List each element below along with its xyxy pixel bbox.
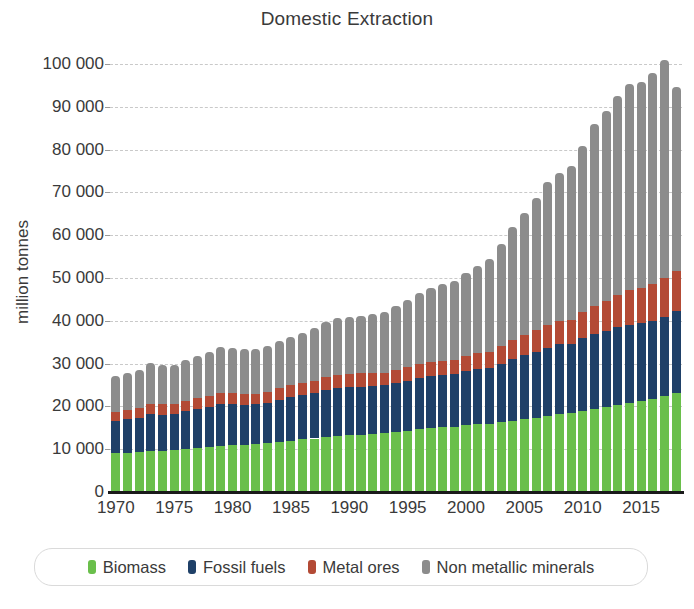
bar-1996[interactable] [415, 64, 424, 492]
bar-1999[interactable] [450, 64, 459, 492]
bar-1979[interactable] [216, 64, 225, 492]
bar-2003[interactable] [497, 64, 506, 492]
bar-1990[interactable] [345, 64, 354, 492]
bar-segment-fossil-fuels [508, 359, 517, 420]
bar-segment-fossil-fuels [135, 418, 144, 453]
bar-segment-non-metallic-minerals [485, 259, 494, 351]
legend-item-biomass[interactable]: Biomass [88, 558, 166, 577]
bar-2006[interactable] [532, 64, 541, 492]
bar-1978[interactable] [205, 64, 214, 492]
bar-segment-non-metallic-minerals [123, 373, 132, 410]
bar-segment-non-metallic-minerals [461, 273, 470, 356]
bar-2017[interactable] [660, 64, 669, 492]
bar-1984[interactable] [275, 64, 284, 492]
legend-swatch-icon [308, 560, 316, 574]
bar-1988[interactable] [321, 64, 330, 492]
bar-segment-fossil-fuels [648, 321, 657, 399]
bar-1972[interactable] [135, 64, 144, 492]
bar-2001[interactable] [473, 64, 482, 492]
bar-segment-fossil-fuels [286, 397, 295, 440]
bar-2014[interactable] [625, 64, 634, 492]
bar-1975[interactable] [170, 64, 179, 492]
bar-segment-non-metallic-minerals [508, 227, 517, 340]
bar-2002[interactable] [485, 64, 494, 492]
bar-segment-fossil-fuels [158, 415, 167, 451]
bar-1995[interactable] [403, 64, 412, 492]
bar-1994[interactable] [391, 64, 400, 492]
bar-1981[interactable] [240, 64, 249, 492]
bar-segment-biomass [532, 418, 541, 492]
bar-segment-biomass [158, 451, 167, 492]
bar-2000[interactable] [461, 64, 470, 492]
bar-1992[interactable] [368, 64, 377, 492]
bar-segment-metal-ores [520, 335, 529, 355]
y-axis-tick-label: 10 000 [4, 439, 104, 459]
y-axis-tick-label: 30 000 [4, 354, 104, 374]
bar-segment-metal-ores [648, 284, 657, 320]
bar-1970[interactable] [111, 64, 120, 492]
bar-segment-metal-ores [415, 364, 424, 378]
bar-2015[interactable] [637, 64, 646, 492]
bar-segment-biomass [403, 431, 412, 492]
bar-1976[interactable] [181, 64, 190, 492]
bar-segment-metal-ores [170, 404, 179, 414]
bar-1985[interactable] [286, 64, 295, 492]
bar-1989[interactable] [333, 64, 342, 492]
bar-2012[interactable] [602, 64, 611, 492]
bar-segment-non-metallic-minerals [403, 300, 412, 367]
bar-1982[interactable] [251, 64, 260, 492]
bar-segment-fossil-fuels [391, 383, 400, 432]
bar-segment-non-metallic-minerals [263, 346, 272, 392]
legend-swatch-icon [422, 560, 430, 574]
bar-2004[interactable] [508, 64, 517, 492]
bar-1997[interactable] [426, 64, 435, 492]
bar-1986[interactable] [298, 64, 307, 492]
bar-segment-fossil-fuels [123, 419, 132, 452]
bar-2011[interactable] [590, 64, 599, 492]
bar-1971[interactable] [123, 64, 132, 492]
bar-segment-metal-ores [473, 353, 482, 369]
bar-segment-fossil-fuels [368, 386, 377, 434]
bar-1991[interactable] [356, 64, 365, 492]
bar-segment-biomass [205, 447, 214, 492]
bar-segment-biomass [135, 452, 144, 492]
bar-segment-metal-ores [205, 396, 214, 407]
bar-segment-fossil-fuels [228, 404, 237, 445]
bar-2013[interactable] [613, 64, 622, 492]
bar-1980[interactable] [228, 64, 237, 492]
bar-1998[interactable] [438, 64, 447, 492]
bar-segment-non-metallic-minerals [648, 73, 657, 285]
legend-item-metal-ores[interactable]: Metal ores [308, 558, 400, 577]
chart-legend: BiomassFossil fuelsMetal oresNon metalli… [34, 548, 648, 586]
bar-segment-non-metallic-minerals [228, 348, 237, 393]
legend-item-fossil-fuels[interactable]: Fossil fuels [188, 558, 286, 577]
legend-label: Metal ores [323, 558, 400, 577]
bar-1973[interactable] [146, 64, 155, 492]
bar-2008[interactable] [555, 64, 564, 492]
bar-segment-metal-ores [426, 362, 435, 377]
bar-segment-fossil-fuels [415, 378, 424, 429]
bar-2018[interactable] [672, 64, 681, 492]
bar-segment-biomass [216, 446, 225, 492]
bar-2016[interactable] [648, 64, 657, 492]
bar-1987[interactable] [310, 64, 319, 492]
bar-segment-metal-ores [310, 381, 319, 393]
bar-2009[interactable] [567, 64, 576, 492]
bar-2005[interactable] [520, 64, 529, 492]
bar-segment-biomass [333, 436, 342, 492]
bar-1993[interactable] [380, 64, 389, 492]
bar-2007[interactable] [543, 64, 552, 492]
bar-segment-non-metallic-minerals [310, 328, 319, 381]
bar-1983[interactable] [263, 64, 272, 492]
legend-item-non-metallic-minerals[interactable]: Non metallic minerals [422, 558, 595, 577]
bar-2010[interactable] [578, 64, 587, 492]
bar-segment-metal-ores [123, 410, 132, 419]
chart-title: Domestic Extraction [0, 8, 694, 30]
bar-segment-metal-ores [356, 373, 365, 386]
bar-1974[interactable] [158, 64, 167, 492]
x-axis-tick-label: 1995 [389, 498, 427, 518]
legend-swatch-icon [88, 560, 96, 574]
bar-segment-non-metallic-minerals [602, 111, 611, 301]
bar-segment-non-metallic-minerals [567, 166, 576, 320]
bar-1977[interactable] [193, 64, 202, 492]
